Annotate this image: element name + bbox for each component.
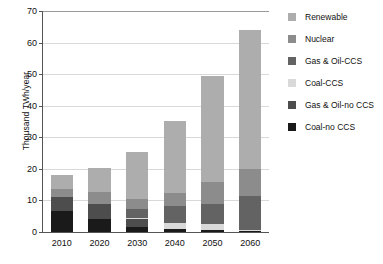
bar-segment xyxy=(164,229,187,232)
y-tick-label: 70 xyxy=(27,6,37,16)
chart-legend: RenewableNuclearGas & Oil-CCSCoal-CCSGas… xyxy=(288,6,383,138)
bar-2010 xyxy=(51,11,74,232)
y-tick-mark xyxy=(39,169,43,170)
y-tick-mark xyxy=(39,43,43,44)
y-tick-label: 20 xyxy=(27,164,37,174)
y-tick-mark xyxy=(39,137,43,138)
legend-label: Gas & Oil-CCS xyxy=(305,56,362,66)
legend-item: Gas & Oil-CCS xyxy=(288,50,383,72)
gridline xyxy=(43,169,269,170)
y-tick-mark xyxy=(39,106,43,107)
bar-segment xyxy=(201,230,224,232)
legend-swatch-icon xyxy=(288,57,296,65)
plot-area: 010203040506070 201020202030204020502060 xyxy=(42,11,269,233)
legend-item: Renewable xyxy=(288,6,383,28)
bar-segment xyxy=(51,175,74,190)
bar-segment xyxy=(126,218,149,219)
bar-2060 xyxy=(239,11,262,232)
legend-label: Coal-no CCS xyxy=(305,122,355,132)
bar-segment xyxy=(201,204,224,225)
bar-segment xyxy=(239,196,262,229)
legend-item: Coal-no CCS xyxy=(288,116,383,138)
x-tick-label: 2040 xyxy=(165,238,185,248)
gridline xyxy=(43,11,269,12)
bar-segment xyxy=(126,227,149,232)
y-tick-mark xyxy=(39,200,43,201)
y-tick-mark xyxy=(39,11,43,12)
gridline xyxy=(43,200,269,201)
bar-2030 xyxy=(126,11,149,232)
x-tick-label: 2050 xyxy=(202,238,222,248)
legend-swatch-icon xyxy=(288,13,296,21)
bar-segment xyxy=(164,206,187,223)
bar-segment xyxy=(126,152,149,199)
y-tick-label: 60 xyxy=(27,38,37,48)
bar-segment xyxy=(51,211,74,232)
bar-segment xyxy=(88,192,111,204)
bar-segment xyxy=(239,169,262,196)
legend-label: Nuclear xyxy=(305,34,334,44)
legend-item: Coal-CCS xyxy=(288,72,383,94)
legend-item: Nuclear xyxy=(288,28,383,50)
bar-segment xyxy=(201,182,224,203)
legend-swatch-icon xyxy=(288,123,296,131)
legend-label: Gas & Oil-no CCS xyxy=(305,100,374,110)
y-tick-label: 30 xyxy=(27,132,37,142)
bar-segment xyxy=(126,219,149,228)
bar-segment xyxy=(88,204,111,220)
x-tick-label: 2060 xyxy=(240,238,260,248)
x-tick-label: 2010 xyxy=(52,238,72,248)
bar-segment xyxy=(239,30,262,169)
y-tick-mark xyxy=(39,232,43,233)
legend-swatch-icon xyxy=(288,79,296,87)
legend-label: Renewable xyxy=(305,12,348,22)
y-tick-mark xyxy=(39,74,43,75)
bar-segment xyxy=(201,224,224,230)
bar-segment xyxy=(51,189,74,197)
bar-segment xyxy=(88,168,111,192)
y-tick-label: 10 xyxy=(27,195,37,205)
bar-segment xyxy=(201,76,224,182)
gridline xyxy=(43,106,269,107)
y-tick-label: 0 xyxy=(32,227,37,237)
stacked-bar-chart-figure: Thousand TWh/year 010203040506070 201020… xyxy=(0,0,383,264)
gridline xyxy=(43,74,269,75)
x-tick-label: 2030 xyxy=(127,238,147,248)
bar-segment xyxy=(51,197,74,211)
bar-2040 xyxy=(164,11,187,232)
bar-2050 xyxy=(201,11,224,232)
y-tick-label: 50 xyxy=(27,69,37,79)
bar-segment xyxy=(126,209,149,218)
y-tick-label: 40 xyxy=(27,101,37,111)
legend-item: Gas & Oil-no CCS xyxy=(288,94,383,116)
bar-segment xyxy=(164,121,187,193)
bar-segment xyxy=(164,193,187,207)
bar-segment xyxy=(164,223,187,229)
bar-segment xyxy=(88,219,111,232)
x-tick-label: 2020 xyxy=(89,238,109,248)
bar-segment xyxy=(126,199,149,209)
legend-label: Coal-CCS xyxy=(305,78,343,88)
legend-swatch-icon xyxy=(288,35,296,43)
gridline xyxy=(43,43,269,44)
bar-2020 xyxy=(88,11,111,232)
bar-segment xyxy=(239,230,262,232)
legend-swatch-icon xyxy=(288,101,296,109)
gridline xyxy=(43,137,269,138)
